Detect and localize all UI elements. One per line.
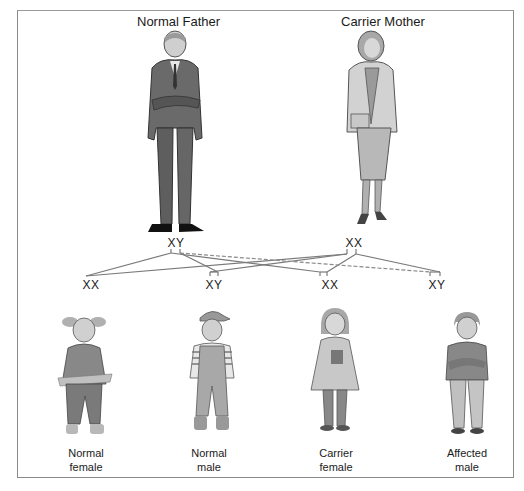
offspring-4-label: Affected male — [427, 446, 507, 474]
offspring-4-label-line2: male — [427, 460, 507, 474]
offspring-3-genotype: XX — [315, 278, 345, 292]
offspring-1-genotype: XX — [76, 278, 106, 292]
offspring-2-label-line1: Normal — [169, 446, 249, 460]
offspring-4-label-line1: Affected — [427, 446, 507, 460]
offspring-2-label: Normal male — [169, 446, 249, 474]
offspring-3-label-line1: Carrier — [296, 446, 376, 460]
affected-male-illustration — [442, 310, 492, 440]
offspring-2-genotype: XY — [199, 278, 229, 292]
offspring-4-genotype: XY — [422, 278, 452, 292]
offspring-3-label: Carrier female — [296, 446, 376, 474]
offspring-2-label-line2: male — [169, 460, 249, 474]
normal-female-illustration — [50, 312, 120, 442]
normal-male-illustration — [182, 306, 242, 441]
offspring-3-label-line2: female — [296, 460, 376, 474]
offspring-1-label-line2: female — [46, 460, 126, 474]
offspring-1-label-line1: Normal — [46, 446, 126, 460]
carrier-female-illustration — [305, 304, 365, 436]
offspring-1-label: Normal female — [46, 446, 126, 474]
